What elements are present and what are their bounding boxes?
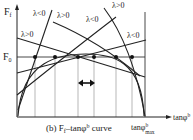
- chart: Ff F0 λ<0 λ>0 λ>0 λ<0 λ>0 λ<0 tanφb tanφ…: [0, 0, 193, 140]
- label-lambda-neg-3: λ<0: [127, 31, 139, 40]
- label-lambda-neg-1: λ<0: [33, 9, 45, 18]
- y-axis-label: Ff: [4, 6, 12, 18]
- label-lambda-neg-2: λ<0: [86, 15, 98, 24]
- f0-label: F0: [3, 51, 12, 63]
- label-lambda-pos-3: λ>0: [112, 1, 124, 10]
- x-arrow-icon: [166, 115, 172, 119]
- x-axis-label: tanφb: [173, 112, 190, 122]
- caption: (b) Ff–tanφb curve: [46, 123, 112, 134]
- y-arrow-icon: [15, 4, 19, 10]
- curves: [17, 8, 146, 116]
- double-arrow-icon: [78, 80, 95, 87]
- curve-lambda-pos-steep: [104, 8, 145, 116]
- label-lambda-pos-2: λ>0: [21, 30, 33, 39]
- drop-lines: [35, 57, 132, 117]
- tanphi-max-label: tanφbmax: [131, 122, 155, 135]
- label-lambda-pos-1: λ>0: [57, 11, 69, 20]
